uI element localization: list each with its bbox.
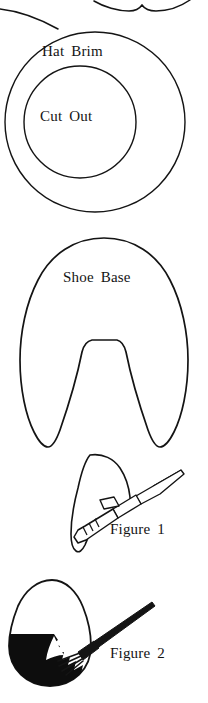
pattern-artwork (0, 0, 208, 703)
figure-2-illustration (0, 580, 155, 700)
shoe-base-label: Shoe Base (63, 269, 131, 286)
hat-brim-label: Hat Brim (42, 43, 103, 60)
pattern-sheet: Hat Brim Cut Out Shoe Base Figure 1 Figu… (0, 0, 208, 703)
top-partial-shape (0, 0, 190, 29)
cut-out-label: Cut Out (40, 108, 92, 125)
figure-1-knife-blade-body (136, 470, 184, 504)
figure-1-cut-slot (100, 497, 119, 509)
figure-2-brush-handle (92, 602, 155, 649)
figure-1-label: Figure 1 (110, 521, 165, 538)
figure-2-label: Figure 2 (110, 645, 165, 662)
